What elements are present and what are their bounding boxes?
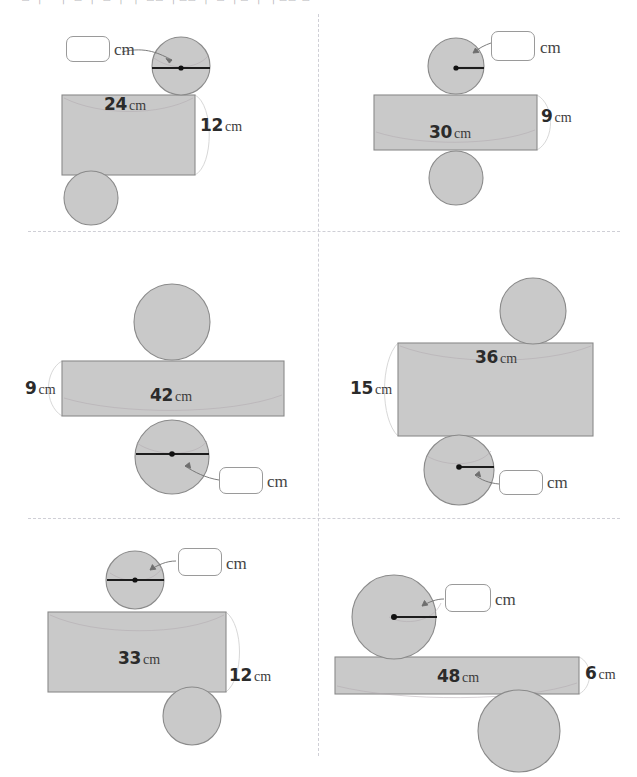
answer-unit-label-3: cm <box>267 472 288 492</box>
circumference-label-5: 33cm <box>118 648 160 668</box>
circumference-label-3: 42cm <box>150 385 192 405</box>
height-unit-4: cm <box>375 382 392 397</box>
answer-unit-label-5: cm <box>226 554 247 574</box>
circumference-value-2: 30 <box>429 122 452 142</box>
circumference-unit-6: cm <box>462 670 479 685</box>
height-value-4: 15 <box>350 378 373 398</box>
header-fragment-text: — □ │○ │ □ │ □ │ │ □□ │□□ │ □ │□ │ │□□ □ <box>4 0 311 3</box>
circumference-value-3: 42 <box>150 385 173 405</box>
circumference-value-5: 33 <box>118 648 141 668</box>
bottom-circle-2 <box>429 151 483 205</box>
height-value-5: 12 <box>229 665 252 685</box>
circumference-unit-5: cm <box>143 652 160 667</box>
height-value-6: 6 <box>585 663 597 683</box>
circumference-label-1: 24cm <box>104 94 146 114</box>
height-label-6: 6cm <box>585 663 616 683</box>
circumference-label-6: 48cm <box>437 666 479 686</box>
circumference-value-4: 36 <box>475 347 498 367</box>
divider-horizontal-2 <box>28 518 620 519</box>
problem-panel-3: cm 42cm 9cm <box>0 245 318 495</box>
height-unit-1: cm <box>225 119 242 134</box>
problem-panel-6: cm 48cm 6cm <box>319 530 637 777</box>
height-value-3: 9 <box>25 378 37 398</box>
top-circle-3 <box>134 284 210 360</box>
circumference-unit-4: cm <box>500 351 517 366</box>
height-unit-2: cm <box>555 110 572 125</box>
height-value-2: 9 <box>541 106 553 126</box>
height-value-1: 12 <box>200 115 223 135</box>
center-point-3 <box>169 451 175 457</box>
answer-unit-label-4: cm <box>547 473 568 493</box>
height-label-5: 12cm <box>229 665 271 685</box>
problem-panel-1: cm 24cm 12cm <box>0 10 318 260</box>
problem-panel-5: cm 33cm 12cm <box>0 530 318 777</box>
circumference-unit-3: cm <box>175 389 192 404</box>
cropped-header-sliver: — □ │○ │ □ │ □ │ │ □□ │□□ │ □ │□ │ │□□ □ <box>0 0 637 10</box>
answer-unit-label-6: cm <box>495 590 516 610</box>
problem-panel-2: cm 30cm 9cm <box>319 10 637 260</box>
answer-box-2[interactable] <box>491 31 535 61</box>
problem-panel-4: cm 36cm 15cm <box>319 245 637 495</box>
answer-unit-label-2: cm <box>540 38 561 58</box>
bottom-circle-5 <box>163 687 221 745</box>
bottom-circle-1 <box>64 171 118 225</box>
cylinder-net-diagram-3 <box>0 245 318 495</box>
cylinder-net-diagram-1 <box>0 10 318 260</box>
bottom-circle-3 <box>135 420 209 494</box>
center-point-4 <box>456 464 462 470</box>
cylinder-net-diagram-6 <box>319 530 637 777</box>
center-point-5 <box>132 577 137 582</box>
height-unit-3: cm <box>39 382 56 397</box>
height-label-1: 12cm <box>200 115 242 135</box>
circumference-unit-2: cm <box>454 126 471 141</box>
answer-box-4[interactable] <box>499 470 543 495</box>
bottom-circle-6 <box>478 690 560 772</box>
height-label-4: 15cm <box>350 378 392 398</box>
circumference-value-1: 24 <box>104 94 127 114</box>
circumference-value-6: 48 <box>437 666 460 686</box>
height-label-3: 9cm <box>25 378 56 398</box>
answer-box-3[interactable] <box>219 467 263 494</box>
height-unit-5: cm <box>254 669 271 684</box>
height-label-2: 9cm <box>541 106 572 126</box>
top-circle-4 <box>500 278 566 344</box>
center-point-6 <box>391 614 397 620</box>
cylinder-net-diagram-4 <box>319 245 637 495</box>
height-unit-6: cm <box>599 667 616 682</box>
center-point-2 <box>453 65 458 70</box>
cap-arc-right-1 <box>195 95 209 175</box>
answer-box-1[interactable] <box>66 36 110 62</box>
cylinder-net-diagram-2 <box>319 10 637 260</box>
circumference-label-4: 36cm <box>475 347 517 367</box>
circumference-unit-1: cm <box>129 98 146 113</box>
answer-box-5[interactable] <box>178 548 222 576</box>
bottom-circle-4 <box>424 435 494 505</box>
answer-unit-label-1: cm <box>114 40 135 60</box>
center-point-1 <box>178 65 183 70</box>
answer-box-6[interactable] <box>445 584 491 612</box>
circumference-label-2: 30cm <box>429 122 471 142</box>
